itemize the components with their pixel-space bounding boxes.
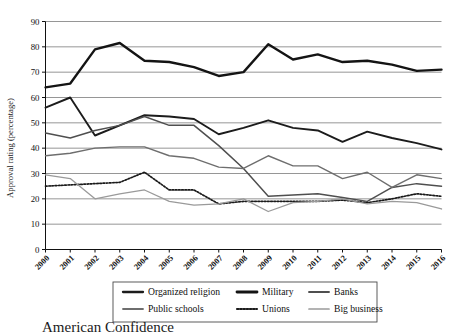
y-tick-label: 30	[31, 169, 40, 179]
x-tick-label: 2014	[380, 253, 399, 272]
x-tick-label: 2011	[306, 254, 324, 272]
series-line-organized-religion	[46, 98, 442, 150]
series-line-banks	[46, 117, 442, 202]
y-tick-label: 10	[31, 219, 40, 229]
y-tick-label: 40	[31, 143, 40, 153]
series-line-public-schools	[46, 147, 442, 188]
x-tick-label: 2001	[58, 254, 76, 272]
x-tick-label: 2009	[256, 254, 274, 272]
x-axis-ticks-group: 2000200120022003200420052006200720082009…	[33, 250, 447, 272]
x-tick-label: 2015	[404, 254, 422, 272]
legend-items-group: Organized religionMilitaryBanksPublic sc…	[123, 286, 383, 314]
x-tick-label: 2004	[132, 253, 151, 272]
x-tick-label: 2003	[107, 254, 125, 272]
y-tick-label: 70	[31, 67, 40, 77]
x-tick-label: 2016	[429, 254, 447, 272]
y-tick-label: 0	[35, 245, 40, 255]
x-tick-label: 2013	[355, 254, 373, 272]
legend-label-organized-religion: Organized religion	[148, 286, 220, 297]
x-tick-label: 2000	[33, 254, 51, 272]
figure-container: 0102030405060708090 20002001200220032004…	[0, 0, 453, 334]
line-chart: 0102030405060708090 20002001200220032004…	[0, 0, 453, 334]
data-series-group	[46, 43, 442, 211]
x-tick-label: 2008	[231, 254, 249, 272]
y-axis-ticks-group: 0102030405060708090	[31, 17, 46, 255]
x-tick-label: 2012	[330, 254, 348, 272]
x-tick-label: 2007	[206, 254, 224, 272]
y-tick-label: 90	[31, 17, 40, 27]
x-tick-label: 2002	[83, 254, 101, 272]
legend-label-banks: Banks	[334, 286, 358, 297]
legend-label-military: Military	[262, 286, 294, 297]
legend-label-unions: Unions	[262, 303, 290, 314]
y-tick-label: 60	[31, 93, 40, 103]
legend-label-public-schools: Public schools	[148, 303, 204, 314]
x-tick-label: 2005	[157, 254, 175, 272]
y-tick-label: 50	[31, 118, 40, 128]
y-tick-label: 20	[31, 194, 40, 204]
series-line-military	[46, 43, 442, 87]
x-tick-label: 2006	[182, 254, 200, 272]
legend-label-big-business: Big business	[334, 303, 383, 314]
x-tick-label: 2010	[281, 254, 299, 272]
y-axis-title: Approval rating (percentage)	[5, 98, 15, 198]
y-tick-label: 80	[31, 42, 40, 52]
figure-caption: American Confidence	[42, 319, 174, 334]
chart-legend: Organized religionMilitaryBanksPublic sc…	[113, 282, 383, 322]
